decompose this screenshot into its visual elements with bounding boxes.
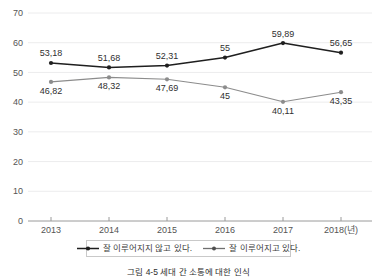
y-axis-tick-label: 40 xyxy=(13,97,23,107)
legend-label-not-well: 잘 이루어지지 않고 있다. xyxy=(103,244,192,253)
data-point[interactable] xyxy=(223,85,227,89)
data-point-label: 55 xyxy=(220,43,230,53)
data-point-label: 48,32 xyxy=(98,81,121,91)
x-axis-tick-label: 2013 xyxy=(41,225,61,235)
series-line xyxy=(51,77,341,101)
legend-marker-icon xyxy=(77,244,99,253)
data-point-label: 52,31 xyxy=(156,51,179,61)
legend-entry-well[interactable]: 잘 이루어지고 있다. xyxy=(203,244,300,253)
legend-label-well: 잘 이루어지고 있다. xyxy=(229,244,300,253)
legend-marker-icon xyxy=(203,244,225,253)
data-point[interactable] xyxy=(165,77,169,81)
data-point[interactable] xyxy=(339,90,343,94)
x-axis-tick-label: 2016 xyxy=(215,225,235,235)
data-point-label: 46,82 xyxy=(40,86,63,96)
data-point[interactable] xyxy=(165,63,169,67)
data-point[interactable] xyxy=(281,41,285,45)
data-point[interactable] xyxy=(223,55,227,59)
y-axis-tick-label: 20 xyxy=(13,157,23,167)
data-point[interactable] xyxy=(107,75,111,79)
figure-caption: 그림 4-5 세대 간 소통에 대한 인식 xyxy=(0,265,377,277)
data-point[interactable] xyxy=(49,61,53,65)
data-point-label: 40,11 xyxy=(272,106,294,116)
data-point-label: 43,35 xyxy=(330,96,353,106)
data-point[interactable] xyxy=(107,65,111,69)
y-axis-tick-label: 60 xyxy=(13,38,23,48)
data-point-label: 47,69 xyxy=(156,83,179,93)
y-axis-tick-label: 0 xyxy=(18,216,23,226)
data-point-label: 53,18 xyxy=(40,48,63,58)
data-point-label: 59,89 xyxy=(272,29,295,39)
y-axis-tick-label: 30 xyxy=(13,127,23,137)
x-axis-tick-label: 2017 xyxy=(273,225,293,235)
y-axis-tick-label: 50 xyxy=(13,68,23,78)
chart-legend: 잘 이루어지지 않고 있다. 잘 이루어지고 있다. xyxy=(86,240,291,257)
data-point[interactable] xyxy=(281,100,285,104)
x-axis-tick-label: 2015 xyxy=(157,225,177,235)
x-axis-tick-label: 2018(년) xyxy=(324,225,358,235)
data-point-label: 56,65 xyxy=(330,38,353,48)
data-point-label: 51,68 xyxy=(98,53,121,63)
y-axis-tick-label: 70 xyxy=(13,8,23,18)
data-point[interactable] xyxy=(49,80,53,84)
data-point-label: 45 xyxy=(220,91,230,101)
x-axis-tick-label: 2014 xyxy=(99,225,119,235)
series-line xyxy=(51,43,341,67)
legend-entry-not-well[interactable]: 잘 이루어지지 않고 있다. xyxy=(77,244,192,253)
data-point[interactable] xyxy=(339,51,343,55)
y-axis-tick-label: 10 xyxy=(13,186,23,196)
